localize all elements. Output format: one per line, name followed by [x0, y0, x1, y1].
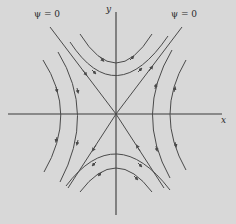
upper-streamlines [70, 34, 168, 76]
lower-streamlines [66, 154, 170, 192]
phase-portrait-figure: ψ = 0 ψ = 0 y x [0, 0, 236, 224]
y-axis-label: y [106, 5, 111, 14]
left-streamlines [43, 52, 78, 182]
psi-zero-label-right: ψ = 0 [171, 10, 197, 19]
psi-zero-label-left: ψ = 0 [34, 10, 60, 19]
x-axis-label: x [221, 116, 226, 125]
phase-portrait-plot [0, 0, 236, 224]
